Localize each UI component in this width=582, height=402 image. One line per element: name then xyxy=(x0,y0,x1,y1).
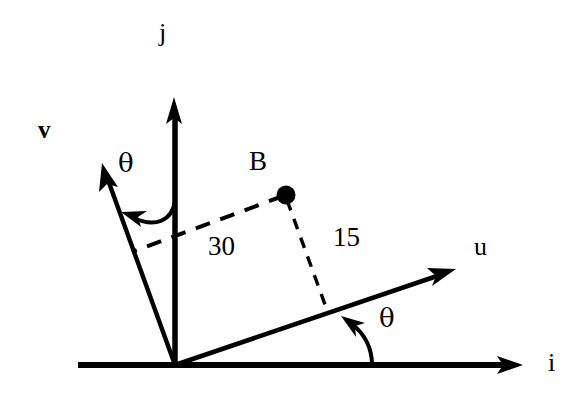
j-axis-label: j xyxy=(159,20,166,46)
dimension-label-15: 15 xyxy=(333,224,360,251)
angle-arc-theta-v-group xyxy=(121,201,175,227)
dimension-line-15-group xyxy=(287,200,327,310)
v-vector-label: v xyxy=(38,117,51,142)
u-vector-line xyxy=(175,275,440,365)
angle-label-theta-u: θ xyxy=(379,305,395,331)
v-vector-group xyxy=(99,163,175,365)
i-axis-label: i xyxy=(548,350,555,376)
vector-diagram-canvas: j i u v B 30 15 θ θ xyxy=(0,0,582,402)
angle-label-theta-v: θ xyxy=(118,150,134,176)
dimension-line-15 xyxy=(287,200,327,310)
v-vector-line xyxy=(108,180,175,365)
point-b-dot xyxy=(277,186,296,205)
i-axis-group xyxy=(78,356,523,374)
dimension-label-30: 30 xyxy=(208,233,235,260)
u-vector-label: u xyxy=(474,234,487,260)
angle-arc-theta-u-group xyxy=(341,316,372,365)
j-axis-group xyxy=(166,97,182,365)
vector-diagram-graphics xyxy=(0,0,582,402)
point-b-label: B xyxy=(249,148,267,175)
